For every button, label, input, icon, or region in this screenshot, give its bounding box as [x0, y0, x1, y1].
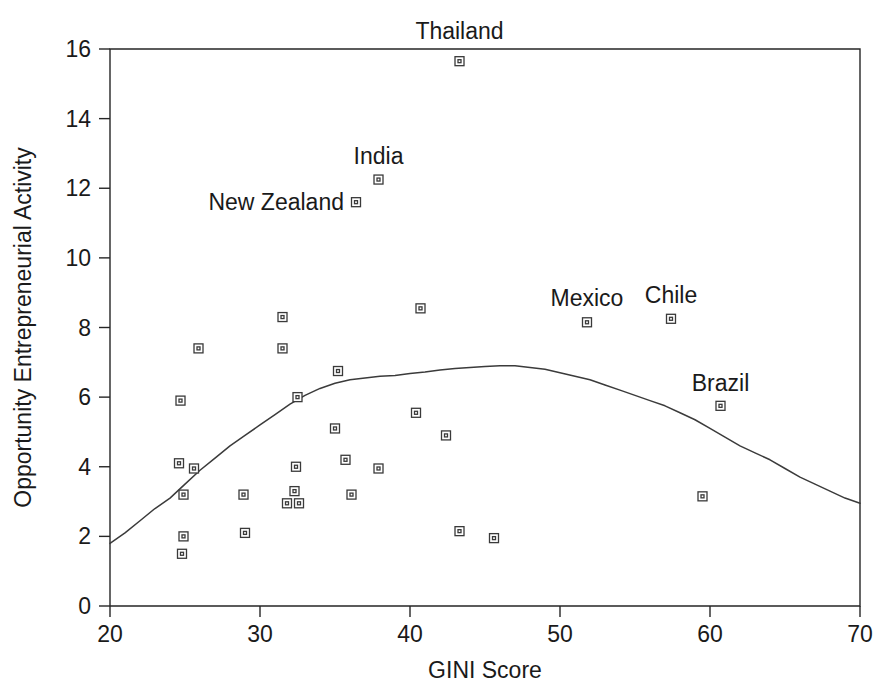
data-point	[698, 492, 707, 501]
y-tick-label-16: 16	[65, 36, 91, 62]
point-label-thailand: Thailand	[415, 18, 503, 44]
data-point	[455, 527, 464, 536]
x-tick-label-30: 30	[247, 621, 273, 647]
plot-frame	[110, 49, 860, 606]
data-point	[194, 344, 203, 353]
x-tick-label-50: 50	[547, 621, 573, 647]
x-tick-label-20: 20	[97, 621, 123, 647]
data-point	[374, 464, 383, 473]
data-point	[347, 490, 356, 499]
point-labels-group: ThailandIndiaNew ZealandMexicoChileBrazi…	[208, 18, 749, 396]
y-tick-label-8: 8	[78, 315, 91, 341]
data-point	[490, 534, 499, 543]
data-point	[278, 344, 287, 353]
data-point	[241, 528, 250, 537]
data-point	[295, 499, 304, 508]
data-point	[334, 367, 343, 376]
x-tick-label-40: 40	[397, 621, 423, 647]
y-tick-label-10: 10	[65, 245, 91, 271]
data-point	[352, 198, 361, 207]
data-point	[178, 549, 187, 558]
data-markers-group	[175, 57, 726, 559]
data-point	[716, 401, 725, 410]
data-point	[290, 487, 299, 496]
y-tick-label-4: 4	[78, 454, 91, 480]
data-point	[341, 455, 350, 464]
data-point	[416, 304, 425, 313]
y-tick-label-2: 2	[78, 523, 91, 549]
y-axis-title: Opportunity Entrepreneurial Activity	[10, 147, 36, 508]
data-point	[190, 464, 199, 473]
y-tick-label-6: 6	[78, 384, 91, 410]
data-point	[179, 490, 188, 499]
data-point	[455, 57, 464, 66]
point-label-mexico: Mexico	[551, 285, 624, 311]
x-axis-title: GINI Score	[428, 657, 542, 683]
data-point	[179, 532, 188, 541]
point-label-chile: Chile	[645, 282, 697, 308]
x-tick-label-60: 60	[697, 621, 723, 647]
data-point	[283, 499, 292, 508]
data-point	[239, 490, 248, 499]
data-point	[667, 314, 676, 323]
data-point	[278, 313, 287, 322]
y-tick-label-12: 12	[65, 175, 91, 201]
scatter-plot-figure: 0246810121416203040506070 ThailandIndiaN…	[0, 0, 896, 697]
x-tick-label-70: 70	[847, 621, 873, 647]
point-label-india: India	[354, 143, 404, 169]
data-point	[175, 459, 184, 468]
chart-canvas: 0246810121416203040506070 ThailandIndiaN…	[0, 0, 896, 697]
data-point	[374, 175, 383, 184]
point-label-brazil: Brazil	[692, 370, 750, 396]
data-point	[412, 408, 421, 417]
data-point	[292, 462, 301, 471]
y-tick-label-14: 14	[65, 106, 91, 132]
point-label-new-zealand: New Zealand	[208, 189, 344, 215]
data-point	[176, 396, 185, 405]
data-point	[293, 393, 302, 402]
data-point	[442, 431, 451, 440]
y-tick-label-0: 0	[78, 593, 91, 619]
data-point	[583, 318, 592, 327]
data-point	[331, 424, 340, 433]
